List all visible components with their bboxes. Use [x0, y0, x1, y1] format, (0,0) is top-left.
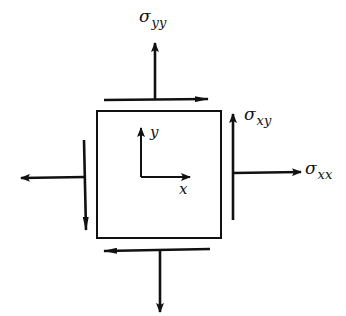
left-normal-arrow — [21, 177, 85, 178]
diagram-graphics — [0, 0, 346, 316]
stress-element-diagram: σyy σxy σxx y x — [0, 0, 346, 316]
x-axis-label: x — [179, 180, 187, 198]
sigma-xy-label: σxy — [244, 104, 271, 124]
sigma-xx-label: σxx — [305, 158, 332, 178]
stress-element-square — [97, 111, 221, 238]
left-shear-arrow — [84, 140, 86, 230]
bottom-shear-arrow — [104, 249, 210, 251]
right-normal-arrow — [233, 172, 301, 173]
sigma-yy-label: σyy — [139, 6, 166, 26]
y-axis-label: y — [150, 123, 158, 141]
